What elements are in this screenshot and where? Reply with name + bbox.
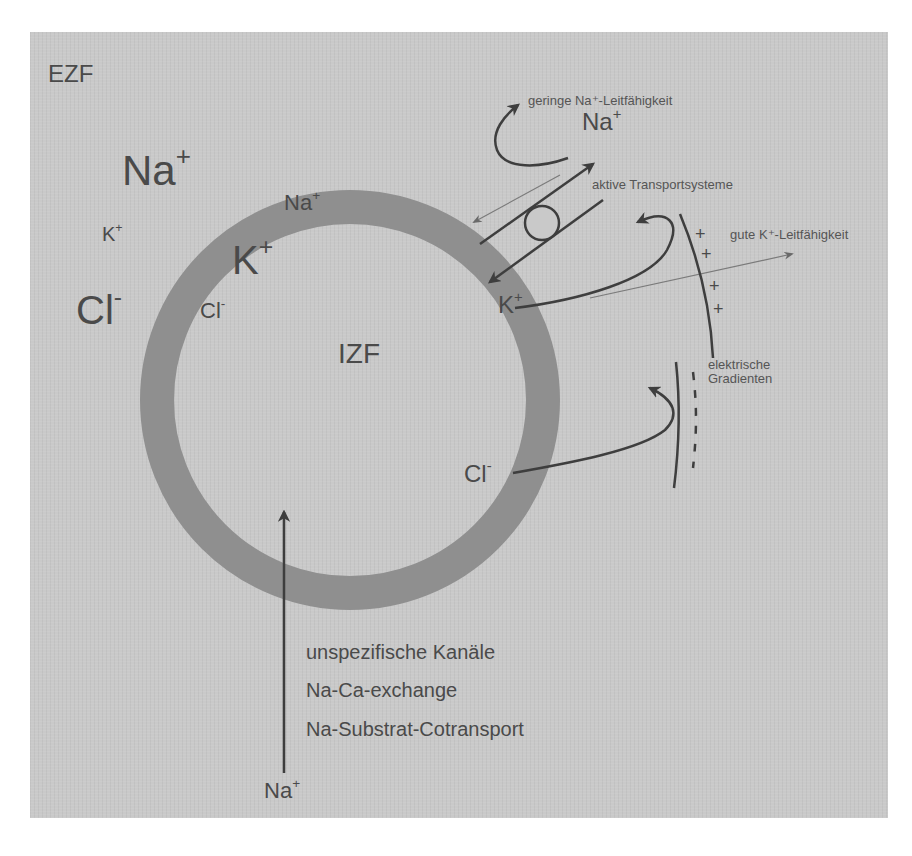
good-k-conductance-line xyxy=(590,254,792,298)
izf-cl-ion: Cl- xyxy=(200,300,225,322)
ion-charge: + xyxy=(115,221,122,235)
pump-k-ion: K+ xyxy=(498,293,523,317)
plus-sign: + xyxy=(695,225,706,243)
ion-symbol: Cl xyxy=(76,288,114,332)
izf-na-ion: Na+ xyxy=(284,192,320,214)
active-transport-label: aktive Transportsysteme xyxy=(592,178,733,191)
cell-membrane xyxy=(157,207,543,593)
ion-charge: + xyxy=(259,233,273,260)
ion-symbol: Na xyxy=(284,190,312,215)
mechanism-unspecific-channels: unspezifische Kanäle xyxy=(306,642,495,662)
ezf-cl-ion: Cl- xyxy=(76,290,122,330)
ion-charge: - xyxy=(487,458,492,474)
electric-gradients-label-line1: elektrische xyxy=(708,358,770,371)
electric-gradients-label-line2: Gradienten xyxy=(708,372,772,385)
ion-charge: + xyxy=(514,289,523,305)
ion-symbol: K xyxy=(102,223,115,245)
negative-gradient-dashed-arc xyxy=(693,372,696,468)
izf-k-ion: K+ xyxy=(232,240,273,280)
ion-charge: - xyxy=(221,296,226,311)
ion-charge: + xyxy=(176,141,191,171)
low-na-conductance-arrow xyxy=(495,105,568,165)
ion-symbol: K xyxy=(232,238,259,282)
ion-charge: + xyxy=(613,106,622,122)
pump-cl-ion: Cl- xyxy=(464,462,492,486)
ion-symbol: Cl xyxy=(200,298,221,323)
ion-symbol: K xyxy=(498,291,514,318)
mechanism-na-substrate-cotransport: Na-Substrat-Cotransport xyxy=(306,719,524,739)
ion-symbol: Na xyxy=(122,147,176,194)
ion-symbol: Na xyxy=(582,108,613,135)
mechanism-na-ca-exchange: Na-Ca-exchange xyxy=(306,680,457,700)
pump-circle-icon xyxy=(525,206,559,240)
extracellular-fluid-label: EZF xyxy=(48,62,93,86)
pump-na-ion: Na+ xyxy=(582,110,621,134)
plus-sign: + xyxy=(709,277,720,295)
plus-sign: + xyxy=(701,245,712,263)
ion-symbol: Na xyxy=(264,778,292,803)
intracellular-fluid-label: IZF xyxy=(338,340,380,368)
low-na-conductance-label: geringe Na⁺-Leitfähigkeit xyxy=(528,94,672,107)
ion-charge: + xyxy=(292,776,300,791)
good-k-conductance-label: gute K⁺-Leitfähigkeit xyxy=(730,228,848,241)
ezf-k-ion: K+ xyxy=(102,224,123,244)
ion-charge: + xyxy=(312,188,320,203)
membrane-gradient-arc xyxy=(674,362,679,488)
ion-charge: - xyxy=(114,283,122,310)
influx-na-ion: Na+ xyxy=(264,780,300,802)
ezf-na-ion: Na+ xyxy=(122,150,191,192)
ion-symbol: Cl xyxy=(464,460,487,487)
plus-sign: + xyxy=(713,300,724,318)
